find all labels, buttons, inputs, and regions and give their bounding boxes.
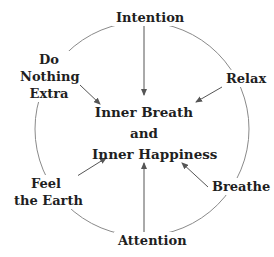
node-do-nothing-extra-line2: Nothing [20,68,78,85]
center-line3: Inner Happiness [92,144,196,165]
center-line1: Inner Breath [92,102,196,123]
node-breathe: Breathe [210,178,272,195]
node-do-nothing-extra-line1: Do [20,51,78,68]
node-intention: Intention [112,9,188,26]
center-concept: Inner Breath and Inner Happiness [92,102,196,165]
arrow-relax [196,87,222,102]
center-line2: and [92,123,196,144]
arrow-breathe [182,163,208,187]
node-attention: Attention [114,232,191,249]
node-do-nothing-extra: Do Nothing Extra [20,51,78,102]
node-feel-the-earth: Feel the Earth [14,175,78,209]
node-feel-the-earth-line2: the Earth [14,192,78,209]
node-do-nothing-extra-line3: Extra [20,85,78,102]
node-feel-the-earth-line1: Feel [14,175,78,192]
node-relax: Relax [224,70,268,87]
